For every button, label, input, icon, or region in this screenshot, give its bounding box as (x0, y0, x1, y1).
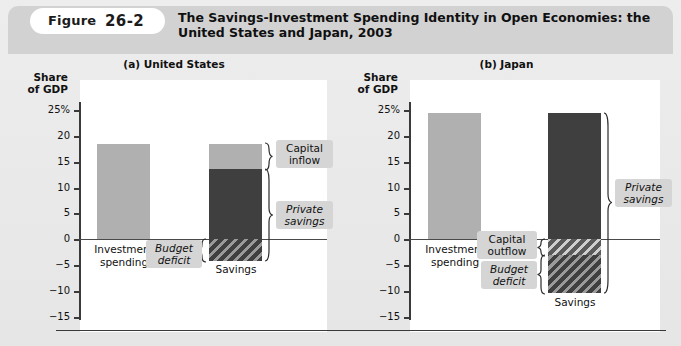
panel-a-callout-private-line-1: Private (280, 203, 329, 215)
panel-a-axis-title-line-1: Share (12, 72, 68, 84)
panel-b-tick-neg10 (404, 291, 410, 293)
panel-a-y-axis (79, 102, 81, 320)
panel-a-tick-20 (74, 136, 80, 138)
panel-b-segment-capital-outflow (548, 239, 601, 255)
panel-a-ticklabel-0: 0 (36, 233, 70, 244)
panel-a-title: (a) United States (8, 58, 340, 70)
panel-b-callout-capital-line-2: outflow (481, 245, 533, 257)
figure-title-line-1: The Savings-Investment Spending Identity… (178, 10, 658, 25)
panel-a-callout-budget-deficit: Budget deficit (146, 240, 202, 268)
panel-a-tick-neg10 (74, 291, 80, 293)
panel-b-segment-private-savings (548, 113, 601, 239)
panel-a-ticklabel-20: 20 (36, 130, 70, 141)
panel-a-callout-budget-line-2: deficit (150, 254, 198, 266)
panel-b-callout-private-line-2: savings (619, 193, 668, 205)
panel-a-tick-10 (74, 188, 80, 190)
panel-b-segment-budget-deficit (548, 255, 601, 293)
panel-japan: (b) Japan Share of GDP 25% 20 15 10 5 0 … (340, 58, 673, 338)
panel-a-callout-capital-inflow: Capital inflow (276, 140, 333, 168)
panel-b-callout-capital-outflow: Capital outflow (477, 231, 537, 259)
figure-label: Figure (48, 13, 96, 28)
panel-b-ticklabel-25: 25% (366, 104, 400, 115)
panel-b-callout-private-savings: Private savings (615, 179, 672, 207)
panel-a-tick-25 (74, 110, 80, 112)
panel-b-brace-private-savings (603, 112, 612, 294)
panel-a-tick-neg5 (74, 265, 80, 267)
panel-a-label-savings: Savings (205, 263, 267, 276)
panel-b-tick-5 (404, 213, 410, 215)
panel-a-segment-private-savings (209, 169, 262, 239)
panel-b-bar-investment-spending (428, 113, 481, 239)
panel-b-tick-10 (404, 188, 410, 190)
panel-b-label-savings: Savings (544, 296, 606, 309)
panel-a-ticklabel-10: 10 (36, 182, 70, 193)
figure-title-line-2: United States and Japan, 2003 (178, 25, 658, 40)
panel-a-ticklabel-25: 25% (36, 104, 70, 115)
figure-container: Figure 26-2 The Savings-Investment Spend… (0, 0, 681, 346)
panel-a-axis-title: Share of GDP (12, 72, 68, 95)
panel-a-ticklabel-5: 5 (36, 207, 70, 218)
panel-b-tick-neg15 (404, 317, 410, 319)
panel-b-brace-budget-deficit (537, 254, 546, 295)
panel-b-ticklabel-neg5: −5 (366, 259, 400, 270)
panel-a-tick-15 (74, 162, 80, 164)
panel-a-brace-private-savings (264, 168, 273, 262)
panel-b-callout-private-line-1: Private (619, 181, 668, 193)
panel-a-ticklabel-neg5: −5 (36, 259, 70, 270)
panel-b-ticklabel-5: 5 (366, 207, 400, 218)
figure-foot-rule (56, 330, 666, 331)
panel-b-callout-capital-line-1: Capital (481, 233, 533, 245)
panel-a-ticklabel-neg15: −15 (36, 311, 70, 322)
panel-b-tick-neg5 (404, 265, 410, 267)
figure-title: The Savings-Investment Spending Identity… (178, 10, 658, 40)
panel-a-axis-title-line-2: of GDP (12, 84, 68, 96)
panel-a-ticklabel-neg10: −10 (36, 285, 70, 296)
panel-b-title: (b) Japan (340, 58, 673, 70)
panel-a-callout-private-savings: Private savings (276, 201, 333, 229)
panel-b-ticklabel-neg15: −15 (366, 311, 400, 322)
panel-a-ticklabel-15: 15 (36, 156, 70, 167)
panel-a-segment-capital-inflow (209, 144, 262, 169)
panel-b-callout-budget-line-2: deficit (485, 275, 533, 287)
panel-b-axis-title: Share of GDP (342, 72, 398, 95)
panel-a-tick-5 (74, 213, 80, 215)
panel-a-callout-capital-line-2: inflow (280, 154, 329, 166)
panel-united-states: (a) United States Share of GDP 25% 20 15… (8, 58, 340, 338)
panel-b-tick-15 (404, 162, 410, 164)
panel-a-bar-investment-spending (97, 144, 150, 239)
panel-b-ticklabel-0: 0 (366, 233, 400, 244)
panel-a-callout-capital-line-1: Capital (280, 142, 329, 154)
panel-b-callout-budget-line-1: Budget (485, 263, 533, 275)
panel-a-callout-private-line-2: savings (280, 215, 329, 227)
panel-b-tick-25 (404, 110, 410, 112)
panel-b-y-axis (409, 102, 411, 320)
panel-b-tick-20 (404, 136, 410, 138)
panel-a-segment-budget-deficit (209, 239, 262, 261)
panel-b-ticklabel-20: 20 (366, 130, 400, 141)
panel-a-tick-neg15 (74, 317, 80, 319)
panel-b-ticklabel-15: 15 (366, 156, 400, 167)
panel-a-callout-budget-line-1: Budget (150, 242, 198, 254)
panel-b-ticklabel-10: 10 (366, 182, 400, 193)
panel-b-axis-title-line-2: of GDP (342, 84, 398, 96)
panel-b-ticklabel-neg10: −10 (366, 285, 400, 296)
panel-b-axis-title-line-1: Share (342, 72, 398, 84)
panel-a-brace-capital-inflow (264, 142, 273, 171)
panel-b-callout-budget-deficit: Budget deficit (481, 261, 537, 289)
figure-number: 26-2 (105, 12, 144, 30)
